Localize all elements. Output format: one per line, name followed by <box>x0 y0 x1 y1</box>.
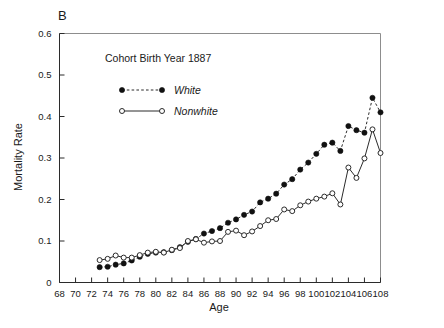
data-point-white <box>314 151 319 156</box>
data-point-nonwhite <box>338 202 343 207</box>
chart-legend: WhiteNonwhite <box>119 84 218 117</box>
data-point-nonwhite <box>201 240 206 245</box>
series-line-white <box>100 98 381 267</box>
y-tick-label: 0.2 <box>38 194 51 205</box>
data-series-group <box>97 95 383 270</box>
data-point-nonwhite <box>137 253 142 258</box>
data-point-white <box>330 140 335 145</box>
data-point-nonwhite <box>113 253 118 258</box>
mortality-rate-line-chart: 00.10.20.30.40.50.6687072747678808284868… <box>0 0 444 328</box>
data-point-nonwhite <box>121 255 126 260</box>
data-point-nonwhite <box>185 239 190 244</box>
x-tick-label: 68 <box>54 288 65 299</box>
data-point-white <box>306 160 311 165</box>
axis-tick-labels: 00.10.20.30.40.50.6687072747678808284868… <box>38 28 388 299</box>
x-tick-label: 86 <box>199 288 210 299</box>
x-tick-label: 100 <box>308 288 324 299</box>
data-point-nonwhite <box>250 229 255 234</box>
legend-marker-nonwhite <box>120 109 125 114</box>
x-tick-label: 88 <box>215 288 226 299</box>
data-point-nonwhite <box>266 218 271 223</box>
data-point-nonwhite <box>209 239 214 244</box>
data-point-white <box>338 148 343 153</box>
data-point-white <box>217 226 222 231</box>
x-tick-label: 82 <box>167 288 178 299</box>
data-point-white <box>233 217 238 222</box>
plot-axis-left-bottom <box>60 34 381 283</box>
x-tick-label: 102 <box>324 288 340 299</box>
x-tick-label: 96 <box>279 288 290 299</box>
legend-marker-nonwhite <box>160 109 165 114</box>
y-tick-label: 0.3 <box>38 152 51 163</box>
data-point-white <box>346 123 351 128</box>
legend-marker-white <box>119 87 124 92</box>
plot-frame-top-right <box>60 34 381 283</box>
x-tick-label: 80 <box>151 288 162 299</box>
x-tick-label: 98 <box>295 288 306 299</box>
data-point-nonwhite <box>234 228 239 233</box>
data-point-white <box>258 200 263 205</box>
data-point-white <box>322 142 327 147</box>
data-point-white <box>274 191 279 196</box>
legend-label-nonwhite: Nonwhite <box>174 105 218 117</box>
legend-marker-white <box>159 87 164 92</box>
data-point-nonwhite <box>153 249 158 254</box>
legend-label-white: White <box>174 84 201 96</box>
data-point-nonwhite <box>322 194 327 199</box>
plot-frame <box>60 34 381 283</box>
data-point-nonwhite <box>314 196 319 201</box>
data-point-nonwhite <box>145 250 150 255</box>
x-tick-label: 76 <box>118 288 129 299</box>
data-point-white <box>362 130 367 135</box>
x-tick-label: 78 <box>134 288 145 299</box>
y-tick-label: 0.1 <box>38 235 51 246</box>
data-point-nonwhite <box>218 239 223 244</box>
data-point-white <box>105 264 110 269</box>
y-axis-title: Mortality Rate <box>12 123 24 191</box>
x-tick-label: 84 <box>183 288 194 299</box>
data-point-white <box>209 228 214 233</box>
x-tick-label: 108 <box>373 288 389 299</box>
data-point-nonwhite <box>298 203 303 208</box>
data-point-white <box>378 110 383 115</box>
data-point-white <box>97 265 102 270</box>
data-point-nonwhite <box>306 199 311 204</box>
x-tick-label: 72 <box>86 288 97 299</box>
data-point-nonwhite <box>274 217 279 222</box>
data-point-nonwhite <box>226 229 231 234</box>
x-tick-label: 74 <box>102 288 113 299</box>
data-point-nonwhite <box>362 156 367 161</box>
data-point-white <box>113 262 118 267</box>
data-point-nonwhite <box>258 224 263 229</box>
x-axis-title: Age <box>209 301 229 313</box>
figure-panel-b: B 00.10.20.30.40.50.66870727476788082848… <box>0 0 444 328</box>
x-tick-label: 106 <box>357 288 373 299</box>
x-tick-label: 92 <box>247 288 258 299</box>
data-point-white <box>290 177 295 182</box>
data-point-white <box>225 220 230 225</box>
y-tick-label: 0.5 <box>38 69 51 80</box>
data-point-nonwhite <box>169 247 174 252</box>
data-point-nonwhite <box>97 258 102 263</box>
cohort-annotation: Cohort Birth Year 1887 <box>105 52 211 64</box>
x-tick-label: 104 <box>340 288 356 299</box>
data-point-white <box>250 209 255 214</box>
data-point-nonwhite <box>282 207 287 212</box>
data-point-nonwhite <box>290 209 295 214</box>
data-point-white <box>354 128 359 133</box>
data-point-nonwhite <box>346 165 351 170</box>
x-tick-label: 90 <box>231 288 242 299</box>
data-point-nonwhite <box>354 175 359 180</box>
data-point-nonwhite <box>105 256 110 261</box>
data-point-white <box>370 95 375 100</box>
data-point-white <box>266 196 271 201</box>
data-point-white <box>241 212 246 217</box>
data-point-nonwhite <box>161 250 166 255</box>
data-point-nonwhite <box>129 255 134 260</box>
y-tick-label: 0 <box>46 277 51 288</box>
data-point-nonwhite <box>242 233 247 238</box>
axis-ticks <box>60 34 381 283</box>
y-tick-label: 0.6 <box>38 28 51 39</box>
data-point-white <box>282 182 287 187</box>
data-point-white <box>121 261 126 266</box>
